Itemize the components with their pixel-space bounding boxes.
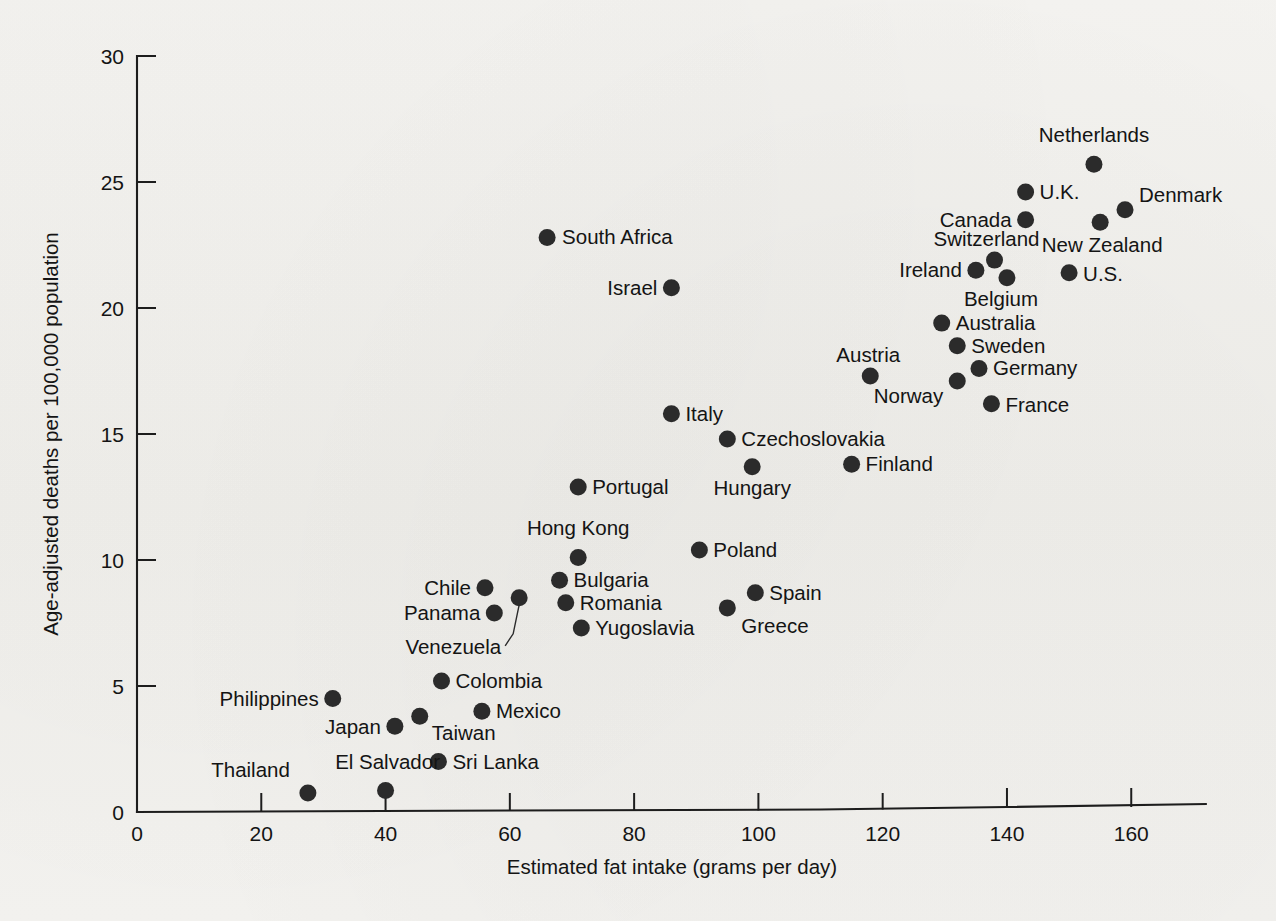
data-point[interactable] [511,589,528,606]
data-point-label: Japan [325,715,381,738]
data-point-label: Austria [836,343,900,366]
data-point[interactable] [1017,184,1034,201]
data-point-label: Belgium [964,287,1038,310]
data-point[interactable] [970,360,987,377]
label-leader-line [505,605,519,646]
data-point-label: Ireland [899,258,962,281]
data-point-label: Germany [993,356,1078,379]
data-point[interactable] [573,620,590,637]
data-point[interactable] [1117,201,1134,218]
data-point-label: Denmark [1139,183,1223,206]
data-point-label: Spain [769,581,821,604]
x-tick-label: 160 [1114,822,1149,845]
data-point[interactable] [747,584,764,601]
x-tick-label: 100 [741,822,776,845]
y-tick-label: 0 [112,801,124,824]
data-point-label: Bulgaria [574,568,650,591]
x-tick-label: 140 [989,822,1024,845]
data-point[interactable] [719,431,736,448]
data-point[interactable] [570,549,587,566]
y-tick-label: 30 [101,45,124,68]
data-point[interactable] [1085,156,1102,173]
data-point[interactable] [1017,211,1034,228]
data-point-label: Switzerland [934,227,1040,250]
data-point[interactable] [986,252,1003,269]
data-point-label: France [1005,393,1069,416]
data-point[interactable] [557,594,574,611]
data-point-label: Finland [866,452,933,475]
data-point-label: South Africa [562,225,673,248]
data-point-label: Norway [874,384,944,407]
data-point[interactable] [473,703,490,720]
data-point[interactable] [433,672,450,689]
data-point[interactable] [949,337,966,354]
data-point-label: Australia [956,311,1036,334]
y-tick-label: 15 [101,423,124,446]
x-tick-label: 40 [374,822,397,845]
data-point[interactable] [570,478,587,495]
x-tick-label: 20 [250,822,273,845]
data-point[interactable] [377,782,394,799]
data-point-label: Yugoslavia [595,616,695,639]
data-point-label: Mexico [496,699,561,722]
x-axis-title: Estimated fat intake (grams per day) [507,855,837,878]
y-tick-label: 10 [101,549,124,572]
y-axis-title: Age-adjusted deaths per 100,000 populati… [39,232,62,635]
data-point-label: Taiwan [432,721,496,744]
data-point-label: Sweden [971,334,1045,357]
data-point[interactable] [949,373,966,390]
data-point-label: Poland [713,538,777,561]
data-point[interactable] [299,785,316,802]
y-tick-label: 25 [101,171,124,194]
y-tick-label: 5 [112,675,124,698]
data-point-label: Israel [607,276,657,299]
data-point[interactable] [324,690,341,707]
data-point-label: El Salvador [335,750,440,773]
data-point-label: Philippines [220,687,319,710]
data-point-label: Netherlands [1039,123,1150,146]
data-point[interactable] [551,572,568,589]
data-point[interactable] [933,315,950,332]
data-point-label: Colombia [455,669,542,692]
data-point[interactable] [719,599,736,616]
data-point-label: Hungary [713,476,791,499]
data-point-label: Panama [404,601,481,624]
data-point[interactable] [862,368,879,385]
data-point-label: U.S. [1083,262,1123,285]
data-point-label: New Zealand [1042,233,1163,256]
data-point-label: Thailand [211,758,290,781]
data-point-label: Sri Lanka [452,750,539,773]
data-point[interactable] [983,395,1000,412]
data-point[interactable] [539,229,556,246]
data-point[interactable] [744,458,761,475]
data-point-label: Romania [580,591,663,614]
data-point-label: Portugal [592,475,668,498]
x-tick-label: 120 [865,822,900,845]
data-point[interactable] [663,279,680,296]
data-point-label: Venezuela [405,635,501,658]
y-tick-label: 20 [101,297,124,320]
data-point[interactable] [663,405,680,422]
x-axis-line [137,804,1206,812]
x-tick-label: 80 [622,822,645,845]
x-tick-label: 60 [498,822,521,845]
data-point[interactable] [486,604,503,621]
data-point[interactable] [1092,214,1109,231]
data-point-label: U.K. [1040,180,1080,203]
data-point[interactable] [476,579,493,596]
data-point[interactable] [998,269,1015,286]
point-labels: NetherlandsU.K.DenmarkCanadaNew ZealandS… [211,123,1223,781]
data-point[interactable] [386,718,403,735]
data-point[interactable] [691,541,708,558]
data-point-label: Italy [685,402,723,425]
x-tick-label: 0 [131,822,143,845]
data-point-label: Hong Kong [527,516,630,539]
data-point[interactable] [843,456,860,473]
data-point[interactable] [1061,264,1078,281]
data-point-label: Greece [741,614,808,637]
figure-canvas: 020406080100120140160051015202530 Nether… [0,0,1276,921]
tick-labels: 020406080100120140160051015202530 [101,45,1149,845]
data-point-label: Czechoslovakia [741,427,885,450]
data-point[interactable] [411,708,428,725]
data-point[interactable] [967,262,984,279]
